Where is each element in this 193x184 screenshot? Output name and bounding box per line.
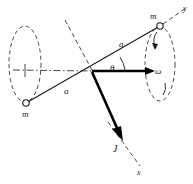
label-arm-top: a	[119, 39, 124, 49]
label-mass-bottom: m	[22, 109, 29, 119]
label-axis-y: y	[182, 4, 187, 13]
small-curved-spin-arrow-bottom	[163, 83, 166, 95]
physics-diagram: m m a a θ ω J y x	[0, 0, 193, 184]
dashed-ellipse-right	[145, 27, 175, 101]
label-axis-x: x	[136, 168, 141, 177]
label-mass-top: m	[150, 11, 157, 21]
label-omega: ω	[155, 66, 161, 76]
label-arm-bottom: a	[64, 86, 69, 96]
dashed-line-upper-left	[65, 20, 93, 72]
mass-marker-top	[157, 23, 163, 29]
mass-marker-bottom	[23, 100, 29, 106]
rigid-rod	[26, 26, 160, 103]
label-angular-momentum: J	[113, 143, 118, 154]
label-angle-theta: θ	[110, 63, 115, 73]
angle-arc-theta	[120, 57, 125, 70]
angular-velocity-vector	[92, 67, 155, 75]
small-curved-spin-arrow-top	[152, 32, 158, 50]
angular-momentum-vector	[92, 72, 123, 141]
